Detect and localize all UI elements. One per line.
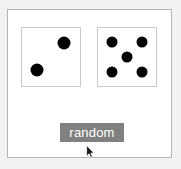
arrow-pointer-icon: [86, 144, 95, 157]
die-right: [97, 27, 157, 87]
die-pip: [106, 67, 117, 78]
app-root: random: [0, 0, 181, 169]
die-pip: [137, 67, 148, 78]
die-left: [21, 27, 81, 87]
die-pip: [57, 36, 70, 49]
die-pip: [106, 36, 117, 47]
die-pip: [137, 36, 148, 47]
die-pip: [122, 52, 133, 63]
dice-roller-canvas: random: [7, 9, 172, 158]
random-button[interactable]: random: [60, 123, 124, 142]
die-pip: [31, 64, 44, 77]
